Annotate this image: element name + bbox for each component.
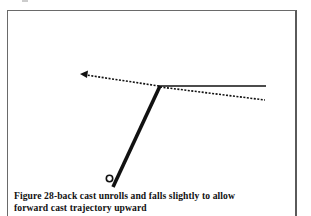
rod-handle-loop-icon [106,175,112,181]
caption-line-1: Figure 28-back cast unrolls and falls sl… [14,190,296,202]
figure-caption: Figure 28-back cast unrolls and falls sl… [14,190,296,214]
forward-trajectory-dotted-line [86,75,159,86]
falling-line-dotted [160,87,265,100]
caption-line-2: forward cast trajectory upward [14,202,296,214]
casting-diagram [0,0,311,216]
arrowhead-icon [80,71,88,79]
fly-rod [113,86,160,187]
